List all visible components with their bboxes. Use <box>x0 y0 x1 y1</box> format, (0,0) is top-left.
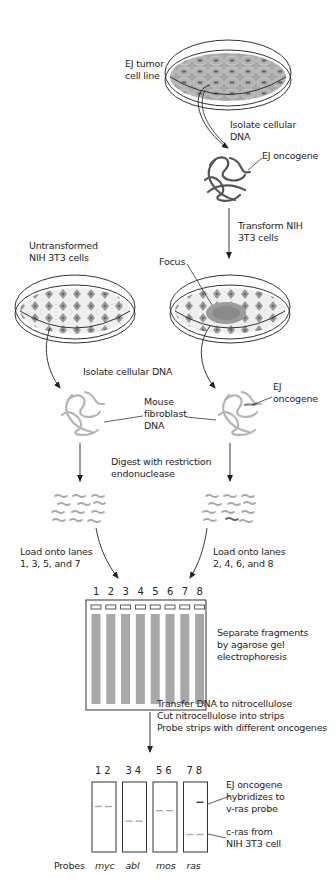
nitrocellulose-strips <box>92 782 208 852</box>
gel-lane-number: 4 <box>137 586 143 598</box>
label-separate: Separate fragmentsby agarose gelelectrop… <box>217 627 308 663</box>
label-load-left: Load onto lanes1, 3, 5, and 7 <box>20 546 92 570</box>
gel-well <box>91 605 101 609</box>
gel-well <box>121 605 131 609</box>
label-transfer: Transfer DNA to nitrocelluloseCut nitroc… <box>157 698 327 734</box>
label-ej-hybridizes: EJ oncogenehybridizes tov-ras probe <box>226 779 285 815</box>
strip-lane-numbers: 5 6 <box>156 765 171 777</box>
fragments-right <box>203 495 255 522</box>
load-arrow-left <box>96 528 118 578</box>
load-arrow-right <box>190 528 207 578</box>
agarose-gel <box>86 600 206 710</box>
gel-lane <box>166 614 175 704</box>
probe-name-ras: ras <box>187 860 201 872</box>
strip-lane-numbers: 1 2 <box>95 765 110 777</box>
label-isolate-dna-top: Isolate cellularDNA <box>230 119 296 143</box>
label-c-ras: c-ras fromNIH 3T3 cell <box>226 826 281 850</box>
label-ej-tumor: EJ tumorcell line <box>125 58 164 82</box>
strip-lane-numbers: 7 8 <box>187 765 202 777</box>
gel-lane <box>92 614 101 704</box>
label-load-right: Load onto lanes2, 4, 6, and 8 <box>213 546 285 570</box>
gel-lane-number: 5 <box>152 586 158 598</box>
label-ej-oncogene-top: EJ oncogene <box>262 150 318 162</box>
gel-well <box>135 605 145 609</box>
tumor-dish <box>165 40 291 110</box>
gel-lane-number: 3 <box>123 586 129 598</box>
probe-name-mos: mos <box>156 860 175 872</box>
gel-lane <box>195 614 204 704</box>
gel-lane-number: 2 <box>108 586 114 598</box>
label-untransformed: UntransformedNIH 3T3 cells <box>29 240 98 264</box>
fragments-left <box>52 495 105 522</box>
probe-name-abl: abl <box>126 860 140 872</box>
gel-well <box>180 605 190 609</box>
transformed-dish <box>170 275 290 343</box>
label-ej-oncogene-mid: EJoncogene <box>273 381 318 405</box>
label-isolate-dna-mid: Isolate cellular DNA <box>83 366 172 378</box>
gel-lane <box>121 614 130 704</box>
gel-well <box>150 605 160 609</box>
mouse-dna-coil <box>62 392 104 435</box>
gel-well <box>195 605 205 609</box>
probe-name-myc: myc <box>95 860 115 872</box>
strip-ras <box>184 782 208 852</box>
label-transform: Transform NIH3T3 cells <box>238 220 303 244</box>
strip-lane-numbers: 3 4 <box>126 765 141 777</box>
gel-lane-number: 8 <box>197 586 203 598</box>
gel-lane-number: 6 <box>167 586 173 598</box>
gel-well <box>165 605 175 609</box>
gel-lane <box>136 614 145 704</box>
gel-lane <box>106 614 115 704</box>
untransformed-dish <box>15 275 135 343</box>
gel-lane-number: 1 <box>93 586 99 598</box>
ej-mouse-dna-coil <box>219 392 261 435</box>
label-focus: Focus <box>159 256 185 268</box>
gel-lane <box>180 614 189 704</box>
strip-abl <box>123 782 147 852</box>
label-digest: Digest with restrictionendonuclease <box>111 456 211 480</box>
ej-dna-coil <box>205 157 250 200</box>
gel-lane-number: 7 <box>182 586 188 598</box>
gel-lane <box>151 614 160 704</box>
strip-myc <box>92 782 116 852</box>
strip-mos <box>153 782 177 852</box>
gel-well <box>106 605 116 609</box>
label-probes: Probes <box>54 860 85 872</box>
label-mouse-dna: MousefibroblastDNA <box>144 396 187 432</box>
